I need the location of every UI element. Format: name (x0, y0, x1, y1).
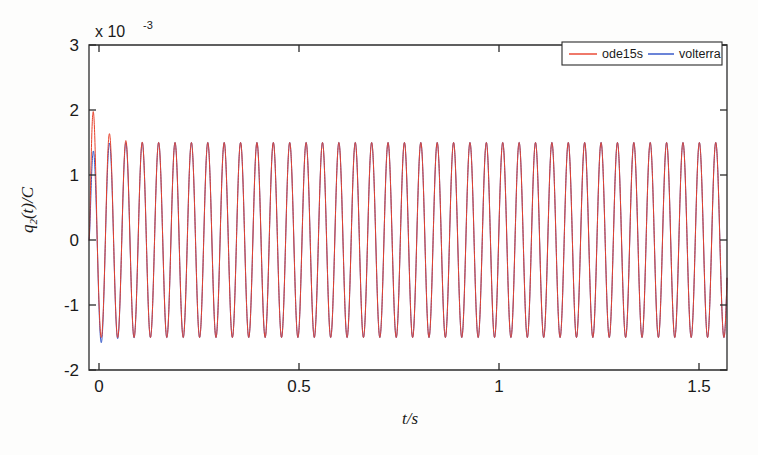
x-tick-labels: 0 0.5 1 1.5 (94, 377, 711, 396)
y-tick-label-1: 1 (70, 166, 79, 185)
legend-label-ode15s: ode15s (602, 47, 643, 61)
legend-label-volterra: volterra (679, 47, 721, 61)
x-tick-label-0: 0 (94, 377, 103, 396)
x-axis-title: t/s (402, 409, 418, 428)
y-tick-label-0: 0 (70, 231, 79, 250)
figure-canvas: 3 2 1 0 -1 -2 0 0.5 1 1.5 x 10 -3 q2(t)/… (0, 0, 758, 455)
y-tick-label-minus1: -1 (64, 296, 79, 315)
y-exponent-power: -3 (143, 19, 153, 31)
y-axis-title-text: q2(t)/C (18, 186, 39, 233)
y-axis-exponent: x 10 -3 (95, 19, 153, 40)
y-tick-label-3: 3 (70, 36, 79, 55)
legend[interactable]: ode15s volterra (562, 42, 722, 65)
y-tick-labels: 3 2 1 0 -1 -2 (64, 36, 79, 380)
x-tick-label-1: 1 (494, 377, 503, 396)
y-exponent-base: x 10 (95, 23, 125, 40)
y-tick-label-minus2: -2 (64, 361, 79, 380)
y-axis-title: q2(t)/C (18, 186, 39, 233)
y-tick-label-2: 2 (70, 101, 79, 120)
x-tick-label-1.5: 1.5 (687, 377, 711, 396)
x-tick-label-0.5: 0.5 (287, 377, 311, 396)
y-axis-title-arg: (t)/C (18, 186, 37, 219)
plot-area: 3 2 1 0 -1 -2 0 0.5 1 1.5 x 10 -3 q2(t)/… (0, 0, 758, 455)
